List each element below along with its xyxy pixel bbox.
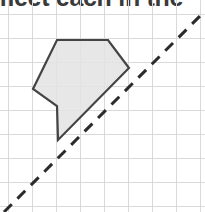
geometry-figure xyxy=(0,0,205,212)
grid-lines xyxy=(0,0,205,212)
figure-canvas xyxy=(0,0,205,212)
screenshot-root: meet each in the xyxy=(0,0,205,212)
